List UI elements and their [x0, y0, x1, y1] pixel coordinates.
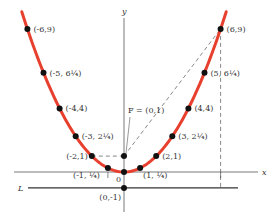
data-point: [153, 153, 159, 159]
data-point: [41, 70, 47, 76]
point-label: (-6,9): [33, 25, 55, 34]
data-point: [169, 133, 175, 139]
directrix-label: L: [17, 184, 23, 193]
data-point: [185, 105, 191, 111]
data-point: [121, 169, 127, 175]
focus-label: F = (0,1): [128, 106, 164, 115]
point-label: (-1, ¼): [73, 171, 100, 180]
point-label: (4,4): [194, 104, 213, 113]
origin-label: 0: [116, 175, 121, 184]
data-point: [218, 26, 224, 32]
data-point: [24, 26, 30, 32]
data-point: [89, 153, 95, 159]
point-label: (5, 6¼): [211, 69, 240, 78]
data-point: [57, 105, 63, 111]
point-label: (0,-1): [99, 193, 121, 202]
data-point: [121, 153, 127, 159]
point-label: (-5, 6¼): [50, 69, 82, 78]
data-point: [73, 133, 79, 139]
point-label: (-3, 2¼): [82, 132, 114, 141]
point-label: (-4,4): [66, 104, 88, 113]
point-label: (-2,1): [66, 152, 88, 161]
data-point: [202, 70, 208, 76]
y-axis-label: y: [121, 7, 127, 16]
point-label: (1, ¼): [143, 171, 167, 180]
data-point: [105, 165, 111, 171]
data-point: [121, 185, 127, 191]
x-axis-label: x: [262, 168, 267, 177]
point-label: (3, 2¼): [178, 132, 207, 141]
parabola-diagram: xy0L(-6,9)(-5, 6¼)(-4,4)(-3, 2¼)(-2,1)(-…: [0, 0, 279, 212]
focus-pointer-line: [126, 117, 130, 153]
point-label: (6,9): [227, 25, 246, 34]
point-label: (2,1): [162, 152, 181, 161]
